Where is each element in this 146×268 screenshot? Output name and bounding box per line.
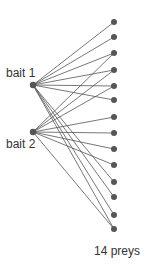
prey-node-6	[111, 97, 117, 103]
prey-node-3	[111, 50, 117, 56]
bait-1-label: bait 1	[6, 66, 35, 80]
nodes	[30, 19, 117, 232]
edge-bait1-prey-5	[33, 85, 114, 86]
prey-node-7	[111, 114, 117, 120]
prey-node-10	[111, 162, 117, 168]
prey-node-13	[111, 212, 117, 218]
prey-node-8	[111, 130, 117, 136]
edge-bait2-prey-8	[33, 132, 114, 133]
prey-node-11	[111, 179, 117, 185]
edge-bait1-prey-11	[33, 85, 114, 182]
prey-node-12	[111, 194, 117, 200]
bait-2-label: bait 2	[6, 137, 35, 151]
edge-bait1-prey-14	[33, 85, 114, 229]
prey-node-1	[111, 19, 117, 25]
edge-bait2-prey-10	[33, 132, 114, 165]
prey-node-4	[111, 67, 117, 73]
edge-bait1-prey-13	[33, 85, 114, 215]
edge-bait1-prey-1	[33, 22, 114, 85]
prey-node-5	[111, 83, 117, 89]
edges	[33, 22, 114, 229]
edge-bait1-prey-3	[33, 53, 114, 85]
edge-bait2-prey-4	[33, 70, 114, 132]
prey-count-caption: 14 preys	[94, 244, 140, 258]
prey-node-14	[111, 226, 117, 232]
prey-node-2	[111, 34, 117, 40]
bait-node-2	[30, 129, 36, 135]
prey-node-9	[111, 146, 117, 152]
bait-prey-network	[0, 0, 146, 268]
bait-node-1	[30, 82, 36, 88]
edge-bait2-prey-7	[33, 117, 114, 132]
